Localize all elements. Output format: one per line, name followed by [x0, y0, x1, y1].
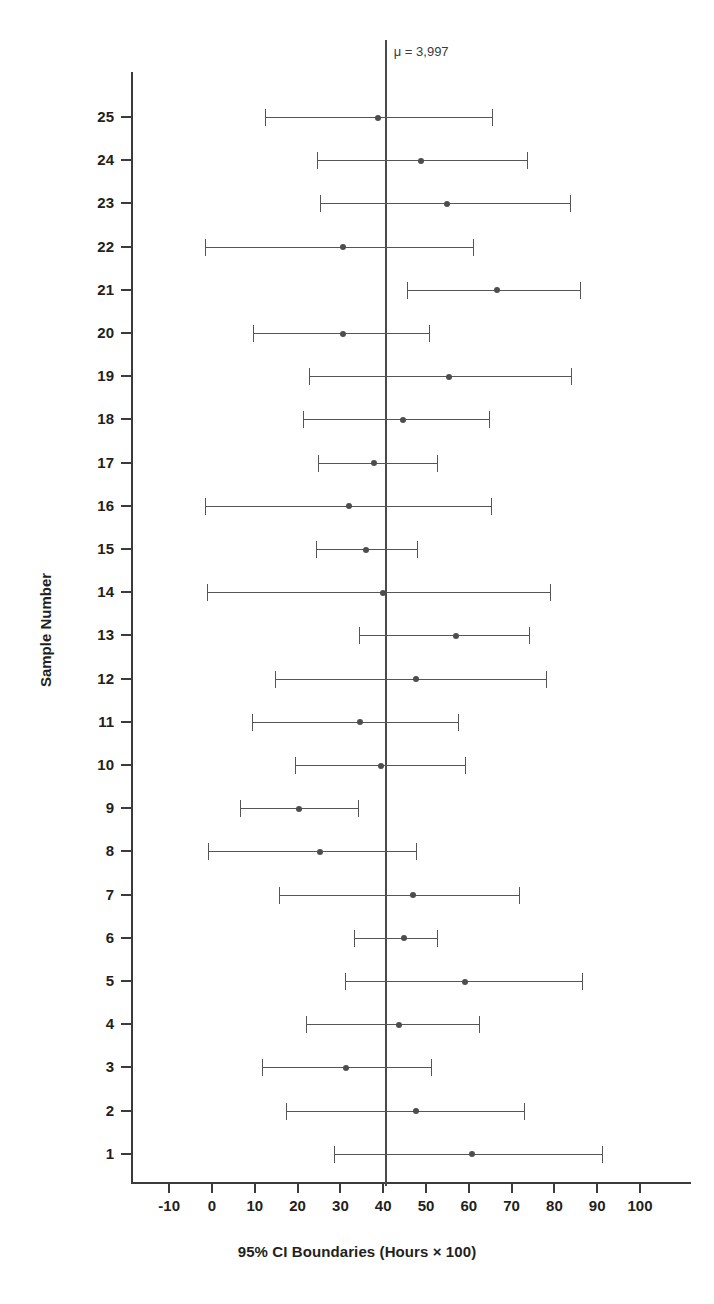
y-axis-tick	[121, 159, 131, 161]
y-axis-tick-label: 19	[62, 368, 114, 383]
y-axis-tick-label: 11	[62, 714, 114, 729]
interval-lower-cap	[207, 584, 208, 601]
y-axis-tick	[121, 1066, 131, 1068]
interval-lower-cap	[265, 109, 266, 126]
interval-point-estimate	[375, 115, 381, 121]
interval-lower-cap	[252, 714, 253, 731]
interval-lower-cap	[240, 800, 241, 817]
interval-lower-cap	[208, 843, 209, 860]
interval-point-estimate	[317, 849, 323, 855]
interval-upper-cap	[358, 800, 359, 817]
interval-point-estimate	[400, 417, 406, 423]
interval-point-estimate	[418, 158, 424, 164]
y-axis-tick-label: 3	[62, 1059, 114, 1074]
interval-line	[306, 1024, 479, 1025]
y-axis-tick	[121, 764, 131, 766]
y-axis-tick	[121, 505, 131, 507]
interval-upper-cap	[465, 757, 466, 774]
plot-area: μ = 3,997 252423222120191817161514131211…	[0, 0, 714, 1304]
y-axis-tick	[121, 850, 131, 852]
y-axis-tick	[121, 894, 131, 896]
interval-point-estimate	[296, 806, 302, 812]
mean-reference-label: μ = 3,997	[394, 44, 449, 59]
y-axis-tick-label: 23	[62, 195, 114, 210]
interval-point-estimate	[343, 1065, 349, 1071]
y-axis-tick	[121, 332, 131, 334]
y-axis-tick-label: 5	[62, 973, 114, 988]
y-axis-tick	[121, 462, 131, 464]
interval-upper-cap	[489, 411, 490, 428]
interval-lower-cap	[354, 930, 355, 947]
y-axis-tick-label: 22	[62, 239, 114, 254]
interval-lower-cap	[262, 1059, 263, 1076]
interval-lower-cap	[253, 325, 254, 342]
y-axis-tick-label: 18	[62, 411, 114, 426]
interval-point-estimate	[371, 460, 377, 466]
interval-lower-cap	[205, 498, 206, 515]
interval-point-estimate	[410, 892, 416, 898]
y-axis-tick-label: 17	[62, 455, 114, 470]
y-axis-tick	[121, 548, 131, 550]
x-axis-title: 95% CI Boundaries (Hours × 100)	[0, 1243, 714, 1260]
x-axis-tick	[339, 1182, 341, 1193]
y-axis-line	[131, 72, 133, 1182]
interval-point-estimate	[401, 935, 407, 941]
interval-point-estimate	[494, 287, 500, 293]
interval-line	[286, 1111, 524, 1112]
y-axis-tick	[121, 980, 131, 982]
interval-upper-cap	[524, 1103, 525, 1120]
interval-upper-cap	[582, 973, 583, 990]
y-axis-tick	[121, 1153, 131, 1155]
y-axis-tick	[121, 634, 131, 636]
interval-point-estimate	[469, 1151, 475, 1157]
interval-lower-cap	[275, 671, 276, 688]
y-axis-tick	[121, 1023, 131, 1025]
interval-lower-cap	[359, 627, 360, 644]
interval-lower-cap	[334, 1146, 335, 1163]
interval-point-estimate	[446, 374, 452, 380]
interval-line	[207, 592, 550, 593]
interval-lower-cap	[320, 195, 321, 212]
y-axis-tick	[121, 116, 131, 118]
y-axis-tick-label: 2	[62, 1103, 114, 1118]
interval-upper-cap	[571, 368, 572, 385]
x-axis-tick	[297, 1182, 299, 1193]
x-axis-tick	[511, 1182, 513, 1193]
interval-point-estimate	[380, 590, 386, 596]
y-axis-tick-label: 25	[62, 109, 114, 124]
y-axis-tick	[121, 807, 131, 809]
x-axis-tick	[468, 1182, 470, 1193]
y-axis-tick	[121, 721, 131, 723]
interval-upper-cap	[429, 325, 430, 342]
interval-point-estimate	[346, 503, 352, 509]
interval-line	[303, 419, 489, 420]
interval-upper-cap	[546, 671, 547, 688]
y-axis-tick-label: 10	[62, 757, 114, 772]
y-axis-tick-label: 4	[62, 1016, 114, 1031]
x-axis-tick	[596, 1182, 598, 1193]
y-axis-tick-label: 13	[62, 627, 114, 642]
y-axis-tick	[121, 246, 131, 248]
x-axis-tick	[211, 1182, 213, 1193]
interval-upper-cap	[529, 627, 530, 644]
interval-upper-cap	[580, 282, 581, 299]
y-axis-tick-label: 21	[62, 282, 114, 297]
y-axis-tick-label: 7	[62, 887, 114, 902]
y-axis-tick-label: 16	[62, 498, 114, 513]
y-axis-tick	[121, 678, 131, 680]
confidence-interval-chart: Sample Number μ = 3,997 2524232221201918…	[0, 0, 714, 1304]
y-axis-tick	[121, 418, 131, 420]
interval-point-estimate	[413, 676, 419, 682]
interval-upper-cap	[431, 1059, 432, 1076]
interval-line	[279, 895, 519, 896]
x-axis-tick-label: 100	[610, 1198, 670, 1213]
y-axis-tick	[121, 591, 131, 593]
interval-line	[309, 376, 571, 377]
x-axis-tick	[425, 1182, 427, 1193]
interval-point-estimate	[413, 1108, 419, 1114]
y-axis-tick-label: 1	[62, 1146, 114, 1161]
interval-point-estimate	[378, 763, 384, 769]
y-axis-tick-label: 8	[62, 843, 114, 858]
interval-lower-cap	[295, 757, 296, 774]
interval-lower-cap	[317, 152, 318, 169]
